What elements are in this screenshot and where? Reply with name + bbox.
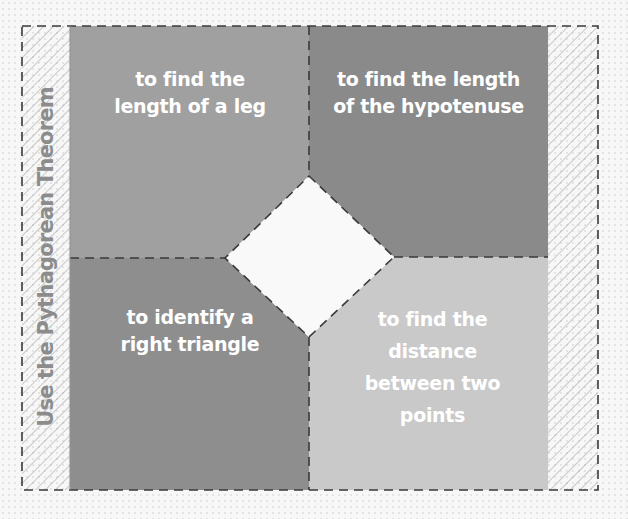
label-line: between two: [330, 367, 535, 399]
quadrant-label-top-right: to find the length of the hypotenuse: [309, 66, 548, 120]
label-line: points: [330, 399, 535, 431]
label-line: to find the: [70, 66, 310, 93]
quadrant-label-bottom-right: to find the distance between two points: [330, 303, 535, 431]
label-line: to identify a: [70, 304, 310, 331]
quadrant-label-bottom-left: to identify a right triangle: [70, 304, 310, 358]
quadrant-label-top-left: to find the length of a leg: [70, 66, 310, 120]
label-line: distance: [330, 335, 535, 367]
label-line: to find the length: [309, 66, 548, 93]
label-line: to find the: [330, 303, 535, 335]
pythagorean-theorem-diagram: Use the Pythagorean Theorem to find the …: [0, 0, 628, 519]
right-hatch-strip: [548, 26, 598, 490]
side-title: Use the Pythagorean Theorem: [34, 87, 58, 427]
label-line: right triangle: [70, 331, 310, 358]
label-line: length of a leg: [70, 93, 310, 120]
label-line: of the hypotenuse: [309, 93, 548, 120]
